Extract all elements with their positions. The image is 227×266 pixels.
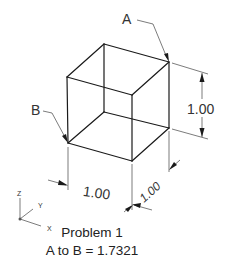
height-dimension-value: 1.00 xyxy=(187,101,214,117)
point-label-b: B xyxy=(31,102,40,118)
leader-b: B xyxy=(31,102,68,143)
triad-origin-icon xyxy=(19,218,22,221)
caption-title: Problem 1 xyxy=(0,224,187,241)
height-dimension: 1.00 xyxy=(172,63,214,139)
caption-result: A to B = 1.7321 xyxy=(0,242,187,259)
cube xyxy=(67,44,169,161)
point-label-a: A xyxy=(122,11,132,27)
depth-dimension-value: 1.00 xyxy=(137,179,164,205)
width-dimension-value: 1.00 xyxy=(82,183,111,203)
triad-y-label: Y xyxy=(38,202,43,209)
leader-a: A xyxy=(122,11,169,62)
triad-z-label: Z xyxy=(17,190,22,197)
